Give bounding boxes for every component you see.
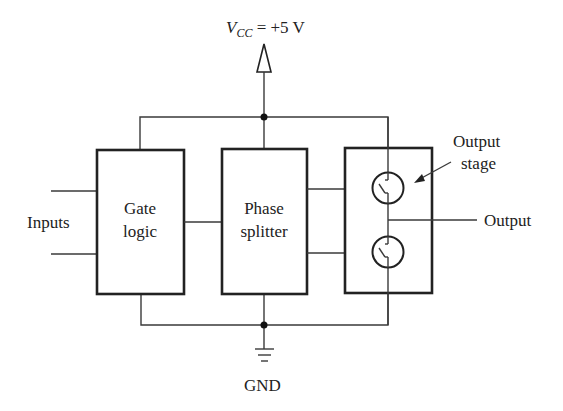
transistor-lower-icon xyxy=(373,236,404,268)
svg-text:logic: logic xyxy=(123,222,157,241)
output-stage-label-line2: stage xyxy=(461,154,496,173)
ttl-block-diagram: VCC = +5 V GND Inputs Gate logic Phase s… xyxy=(0,0,563,411)
inputs-label: Inputs xyxy=(27,213,70,232)
output-stage-label-line1: Output xyxy=(453,132,501,151)
vcc-junction-dot xyxy=(261,114,268,121)
svg-text:Gate: Gate xyxy=(124,199,156,218)
gnd-label: GND xyxy=(244,376,281,395)
output-label: Output xyxy=(484,211,532,230)
transistor-upper-icon xyxy=(373,172,404,204)
diagram-canvas: VCC = +5 V GND Inputs Gate logic Phase s… xyxy=(0,0,563,411)
svg-text:splitter: splitter xyxy=(240,222,288,241)
gnd-junction-dot xyxy=(261,322,268,329)
svg-text:Phase: Phase xyxy=(244,199,284,218)
vcc-label: VCC = +5 V xyxy=(226,18,306,40)
ground-icon xyxy=(255,349,274,361)
vcc-arrow-icon xyxy=(257,44,271,72)
